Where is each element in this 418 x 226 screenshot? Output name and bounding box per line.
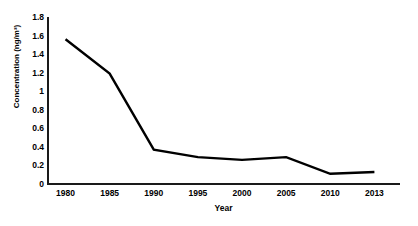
line-chart: Concentration (ng/m³) 00.20.40.60.811.21…: [0, 0, 418, 226]
x-axis-tick-labels: 19801985199019952000200520102013: [47, 188, 400, 204]
y-tick-label: 0.2: [20, 161, 44, 170]
y-tick-label: 0.4: [20, 143, 44, 152]
x-tick-label: 2010: [308, 188, 352, 198]
x-tick-label: 2000: [220, 188, 264, 198]
y-tick-label: 1.6: [20, 31, 44, 40]
x-tick-label: 1985: [88, 188, 132, 198]
y-tick-label: 1.4: [20, 50, 44, 59]
y-tick-label: 1.2: [20, 68, 44, 77]
y-tick-label: 0.6: [20, 124, 44, 133]
x-tick-label: 2005: [264, 188, 308, 198]
y-axis-tick-labels: 00.20.40.60.811.21.41.61.8: [20, 0, 44, 226]
y-tick-label: 0.8: [20, 106, 44, 115]
x-tick-label: 1980: [44, 188, 88, 198]
x-tick-label: 2013: [352, 188, 396, 198]
plot-area: [47, 17, 400, 184]
data-series-line: [47, 17, 400, 184]
x-tick-label: 1990: [132, 188, 176, 198]
y-tick-label: 0: [20, 180, 44, 189]
x-tick-label: 1995: [176, 188, 220, 198]
y-tick-label: 1: [20, 87, 44, 96]
x-axis-title: Year: [47, 203, 400, 213]
y-tick-label: 1.8: [20, 13, 44, 22]
